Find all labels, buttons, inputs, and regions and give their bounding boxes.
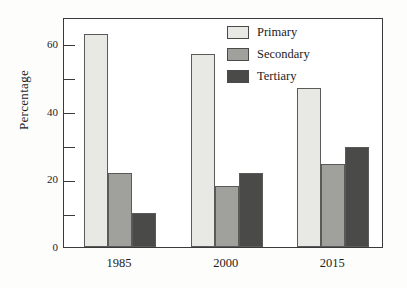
legend-swatch-tertiary	[227, 70, 249, 83]
legend-label-secondary: Secondary	[257, 47, 310, 62]
legend-item-primary: Primary	[227, 23, 347, 42]
bar-secondary-2015	[321, 164, 345, 247]
y-tick-10	[64, 215, 75, 216]
y-tick-30	[64, 147, 75, 148]
y-tick-40	[64, 113, 75, 114]
y-tick-label-40: 40	[24, 106, 58, 118]
legend-swatch-secondary	[227, 48, 249, 61]
bar-secondary-1985	[108, 173, 132, 247]
bar-secondary-2000	[215, 186, 239, 247]
chart-legend: PrimarySecondaryTertiary	[227, 23, 347, 89]
y-axis-title: Percentage	[16, 52, 32, 148]
bar-chart-figure: Percentage 0204060 198520002015 PrimaryS…	[0, 0, 407, 288]
bar-primary-2015	[297, 88, 321, 247]
y-tick-20	[64, 181, 75, 182]
bar-primary-2000	[191, 54, 215, 247]
legend-label-tertiary: Tertiary	[257, 69, 296, 84]
legend-item-tertiary: Tertiary	[227, 67, 347, 86]
legend-label-primary: Primary	[257, 25, 297, 40]
y-tick-50	[64, 79, 75, 80]
x-tick-label-1985: 1985	[89, 256, 149, 271]
y-tick-label-20: 20	[24, 173, 58, 185]
y-tick-label-60: 60	[24, 38, 58, 50]
bar-tertiary-2015	[345, 147, 369, 247]
bar-primary-1985	[84, 34, 108, 247]
scanned-page-background: Percentage 0204060 198520002015 PrimaryS…	[0, 0, 407, 288]
scan-edge-artifact	[227, 270, 407, 288]
x-tick-label-2015: 2015	[302, 256, 362, 271]
y-tick-label-0: 0	[24, 241, 58, 253]
bar-tertiary-1985	[132, 213, 156, 247]
legend-swatch-primary	[227, 26, 249, 39]
x-tick-label-2000: 2000	[196, 256, 256, 271]
bar-tertiary-2000	[239, 173, 263, 247]
y-tick-60	[64, 45, 75, 46]
legend-item-secondary: Secondary	[227, 45, 347, 64]
